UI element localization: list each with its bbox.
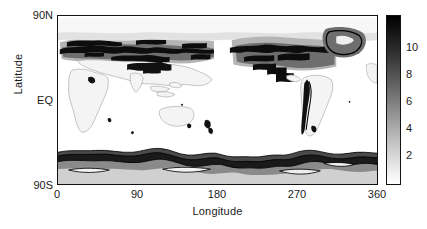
x-tick-270: 270 [288,188,306,200]
figure-container: Latitude 90N EQ 90S [0,0,427,229]
colorbar-tick-2: 2 [406,149,412,161]
y-tick-eq: EQ [37,94,53,106]
x-tick-180: 180 [208,188,226,200]
map-plot-area [57,15,378,185]
x-tick-90: 90 [131,188,143,200]
y-tick-90n: 90N [33,9,53,21]
colorbar [386,15,401,185]
colorbar-tick-4: 4 [406,122,412,134]
x-tick-360: 360 [368,188,386,200]
y-tick-90s: 90S [33,179,53,191]
colorbar-tick-6: 6 [406,95,412,107]
southern-ocean-contours [58,148,377,184]
x-tick-0: 0 [54,188,60,200]
colorbar-tick-8: 8 [406,68,412,80]
colorbar-tick-10: 10 [406,41,418,53]
y-axis-ticks: 90N EQ 90S [0,0,53,229]
world-contour-map [58,16,377,184]
x-axis-label: Longitude [57,205,378,217]
